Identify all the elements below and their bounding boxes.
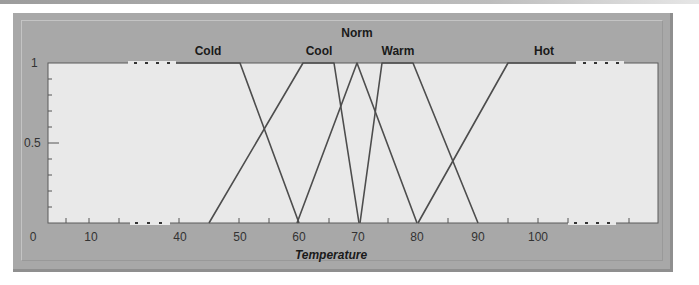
x-tick-label-70: 70 (351, 230, 364, 244)
mf-label-cold: Cold (195, 44, 222, 58)
mf-label-hot: Hot (534, 44, 554, 58)
x-tick-label-80: 80 (410, 230, 423, 244)
x-axis-title: Temperature (295, 248, 367, 262)
x-tick-label-60: 60 (292, 230, 305, 244)
mf-label-warm: Warm (382, 44, 415, 58)
membership-function-chart (0, 0, 699, 285)
mf-label-norm: Norm (341, 26, 372, 40)
x-tick-label-90: 90 (471, 230, 484, 244)
x-tick-label-0: 0 (30, 230, 37, 244)
mf-label-cool: Cool (306, 44, 333, 58)
y-tick-label-1: 1 (31, 56, 38, 70)
x-tick-label-10: 10 (84, 230, 97, 244)
x-tick-label-50: 50 (233, 230, 246, 244)
y-tick-label-0-5: 0.5 (24, 136, 41, 150)
x-tick-label-100: 100 (528, 230, 548, 244)
plot-area (48, 63, 658, 223)
x-tick-label-40: 40 (173, 230, 186, 244)
